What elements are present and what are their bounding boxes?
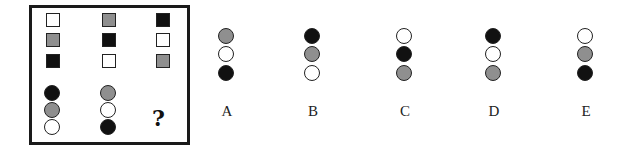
circle-c2-r2 <box>100 102 116 118</box>
option-c-circle-3 <box>396 65 412 81</box>
puzzle-matrix: ? <box>29 5 190 145</box>
circle-c1-r1 <box>44 85 60 101</box>
option-e-circle-2 <box>577 46 593 62</box>
option-c[interactable]: C <box>390 0 420 147</box>
option-b[interactable]: B <box>298 0 328 147</box>
option-c-circle-1 <box>396 28 412 44</box>
square-r2-c2 <box>102 33 116 47</box>
missing-cell-question-mark: ? <box>152 105 165 131</box>
option-e-label: E <box>571 103 601 120</box>
circle-c1-r2 <box>44 102 60 118</box>
option-b-circle-2 <box>304 46 320 62</box>
option-b-circle-1 <box>304 28 320 44</box>
option-e-circle-1 <box>577 28 593 44</box>
option-a-circle-3 <box>218 65 234 81</box>
circle-c2-r1 <box>100 85 116 101</box>
option-d[interactable]: D <box>479 0 509 147</box>
square-r1-c2 <box>102 13 116 27</box>
option-b-circle-3 <box>304 65 320 81</box>
option-c-label: C <box>390 103 420 120</box>
option-d-circle-2 <box>485 46 501 62</box>
square-r1-c1 <box>46 13 60 27</box>
option-d-circle-1 <box>485 28 501 44</box>
option-d-label: D <box>479 103 509 120</box>
option-a-label: A <box>212 103 242 120</box>
circle-c2-r3 <box>100 119 116 135</box>
option-c-circle-2 <box>396 46 412 62</box>
option-a[interactable]: A <box>212 0 242 147</box>
option-a-circle-1 <box>218 28 234 44</box>
square-r1-c3 <box>156 13 170 27</box>
square-r3-c1 <box>46 54 60 68</box>
option-e[interactable]: E <box>571 0 601 147</box>
square-r3-c2 <box>102 54 116 68</box>
option-e-circle-3 <box>577 65 593 81</box>
option-a-circle-2 <box>218 46 234 62</box>
square-r3-c3 <box>156 54 170 68</box>
option-b-label: B <box>298 103 328 120</box>
square-r2-c1 <box>46 33 60 47</box>
square-r2-c3 <box>156 33 170 47</box>
option-d-circle-3 <box>485 65 501 81</box>
circle-c1-r3 <box>44 119 60 135</box>
